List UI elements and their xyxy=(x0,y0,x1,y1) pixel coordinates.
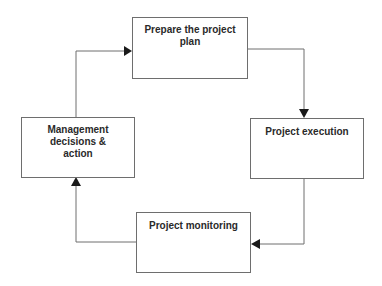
node-label: Prepare the project plan xyxy=(133,24,247,48)
edge-execution-to-monitoring xyxy=(251,178,304,249)
node-project-execution: Project execution xyxy=(250,118,364,179)
arrowhead-down-icon xyxy=(299,109,309,118)
arrowhead-up-icon xyxy=(71,177,81,186)
node-prepare-plan: Prepare the project plan xyxy=(132,17,248,79)
cycle-diagram: Prepare the project plan Project executi… xyxy=(0,0,382,286)
node-project-monitoring: Project monitoring xyxy=(136,212,251,273)
edge-plan-to-execution xyxy=(247,49,309,118)
node-label: Project monitoring xyxy=(137,220,250,232)
node-management-decisions: Management decisions & action xyxy=(21,117,135,178)
edge-monitoring-to-management xyxy=(71,177,136,242)
node-label: Management decisions & action xyxy=(22,124,134,160)
arrowhead-left-icon xyxy=(251,239,260,249)
arrowhead-right-icon xyxy=(124,46,132,56)
edge-management-to-plan xyxy=(76,46,132,117)
node-label: Project execution xyxy=(251,126,363,138)
